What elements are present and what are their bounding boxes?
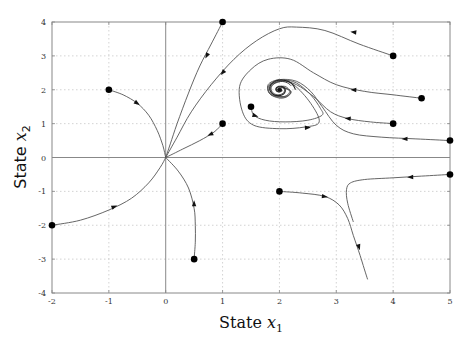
y-tick-label: 0 [41,154,46,163]
initial-point-marker [418,95,425,102]
y-tick-label: -1 [38,187,46,196]
initial-point-marker [49,222,56,229]
trajectory-curve [279,191,367,279]
initial-point-marker [390,120,397,127]
x-tick-label: 0 [163,297,168,306]
initial-point-marker [447,137,454,144]
phase-portrait-chart: -2-1012345 -4-3-2-101234 State x1 State … [0,0,470,340]
x-tick-label: 4 [391,297,396,306]
initial-point-marker [248,103,255,110]
arrow-head-icon [350,30,356,35]
y-tick-label: 3 [41,52,46,61]
x-tick-label: 3 [334,297,339,306]
x-tick-label: -2 [48,297,56,306]
initial-point-marker [447,171,454,178]
trajectory-curve [166,158,196,260]
arrow-head-icon [402,137,408,141]
trajectories [52,22,450,279]
zero-axes [52,22,450,293]
trajectory-curve [166,22,223,158]
focus-point [278,88,281,91]
y-axis-label: State x2 [11,125,33,188]
y-tick-label: -4 [38,289,46,298]
initial-point-marker [390,53,397,60]
x-tick-label: 1 [220,297,225,306]
x-axis-label: State x1 [219,313,283,335]
direction-arrows [111,30,413,251]
initial-point-marker [276,188,283,195]
initial-point-marker [106,86,113,93]
initial-point-marker [219,19,226,26]
trajectory-curve [166,124,223,158]
y-tick-label: -2 [38,221,46,230]
trajectory-curve [346,174,450,222]
initial-point-marker [191,256,198,263]
x-tick-label: 2 [277,297,282,306]
y-tick-label: 4 [41,18,46,27]
y-tick-label: 2 [41,86,46,95]
arrow-head-icon [407,175,413,180]
y-tick-label: 1 [41,120,46,129]
initial-points [49,19,454,263]
arrow-head-icon [350,87,356,92]
initial-point-marker [219,120,226,127]
y-tick-label: -3 [38,255,46,264]
arrow-head-icon [345,116,351,121]
trajectory-curve [251,80,323,122]
x-tick-label: -1 [105,297,113,306]
trajectory-curve [270,81,393,123]
x-tick-label: 5 [447,297,452,306]
arrow-head-icon [322,194,329,199]
